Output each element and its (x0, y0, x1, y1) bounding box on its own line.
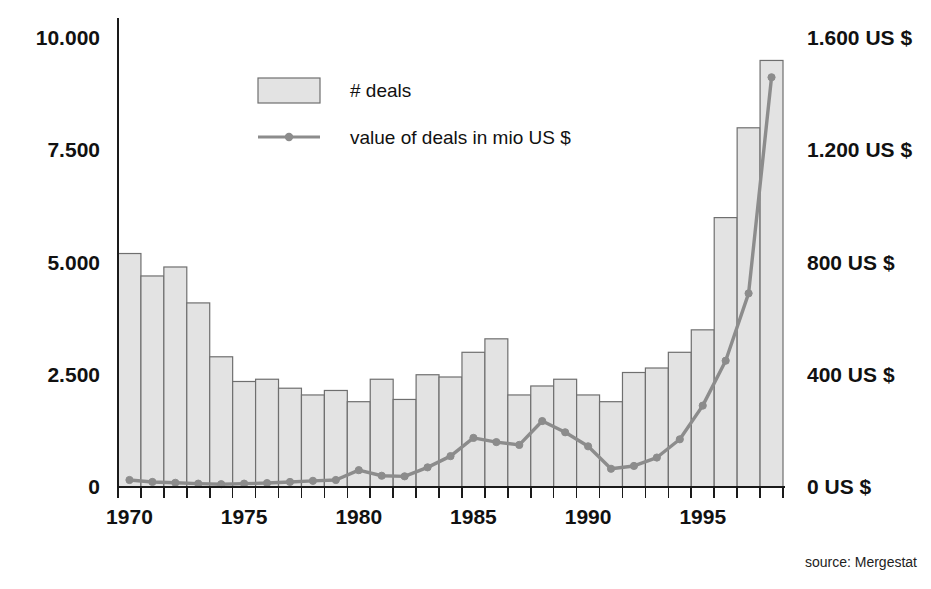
value-point-1992 (630, 462, 637, 469)
value-point-1994 (676, 436, 683, 443)
y-tick-label-left-5.000: 5.000 (47, 251, 100, 274)
value-point-1980 (355, 467, 362, 474)
value-point-1978 (309, 477, 316, 484)
chart-figure: 02.5005.0007.50010.000 0 US $400 US $800… (0, 0, 931, 589)
y-tick-label-right-1: 400 US $ (807, 363, 895, 386)
value-point-1987 (516, 441, 523, 448)
bar-1976 (256, 379, 279, 487)
value-point-1970 (126, 476, 133, 483)
value-point-1990 (584, 443, 591, 450)
value-point-1977 (286, 478, 293, 485)
y-tick-label-right-0: 0 US $ (807, 475, 872, 498)
legend-label-value: value of deals in mio US $ (350, 127, 571, 148)
bar-1970 (118, 254, 141, 487)
value-point-1995 (699, 402, 706, 409)
bar-1984 (439, 377, 462, 487)
value-point-1981 (378, 472, 385, 479)
value-point-1982 (401, 473, 408, 480)
bar-1993 (645, 368, 668, 487)
bar-1997 (737, 128, 760, 487)
y-tick-label-left-10.000: 10.000 (36, 26, 100, 49)
bar-1973 (187, 303, 210, 487)
x-tick-label-1985: 1985 (450, 505, 497, 528)
bar-1998 (760, 60, 783, 487)
y-tick-label-right-4: 1.600 US $ (807, 26, 912, 49)
bar-1974 (210, 357, 233, 487)
legend-label-deals: # deals (350, 80, 411, 101)
bar-1977 (279, 388, 302, 487)
value-point-1993 (653, 454, 660, 461)
bar-1979 (324, 390, 347, 487)
x-tick-label-1990: 1990 (565, 505, 612, 528)
bar-1991 (600, 402, 623, 487)
source-note: source: Mergestat (805, 554, 917, 570)
bar-1975 (233, 381, 256, 487)
value-point-1985 (470, 434, 477, 441)
value-point-1991 (607, 465, 614, 472)
value-point-1976 (263, 479, 270, 486)
y-tick-label-right-3: 1.200 US $ (807, 138, 912, 161)
value-point-1984 (447, 453, 454, 460)
value-point-1983 (424, 464, 431, 471)
value-point-1972 (172, 479, 179, 486)
y-tick-label-left-2.500: 2.500 (47, 363, 100, 386)
value-point-1996 (722, 357, 729, 364)
y-tick-label-right-2: 800 US $ (807, 251, 895, 274)
bar-1996 (714, 218, 737, 487)
value-point-1979 (332, 476, 339, 483)
x-tick-label-1975: 1975 (221, 505, 268, 528)
bar-1978 (301, 395, 324, 487)
legend-point-value (285, 133, 293, 141)
bar-1986 (485, 339, 508, 487)
bar-1972 (164, 267, 187, 487)
bar-1988 (531, 386, 554, 487)
bar-1994 (668, 352, 691, 487)
bar-1981 (370, 379, 393, 487)
x-tick-label-1995: 1995 (679, 505, 726, 528)
x-tick-label-1980: 1980 (335, 505, 382, 528)
x-tick-label-1970: 1970 (106, 505, 153, 528)
value-point-1971 (149, 478, 156, 485)
bar-1971 (141, 276, 164, 487)
value-point-1998 (768, 74, 775, 81)
y-tick-label-left-0: 0 (88, 475, 100, 498)
y-tick-label-left-7.500: 7.500 (47, 138, 100, 161)
value-point-1989 (562, 429, 569, 436)
value-point-1997 (745, 290, 752, 297)
value-point-1986 (493, 439, 500, 446)
deals-chart: 02.5005.0007.50010.000 0 US $400 US $800… (0, 0, 931, 589)
legend-swatch-deals (258, 78, 320, 103)
bar-1985 (462, 352, 485, 487)
value-point-1988 (539, 417, 546, 424)
